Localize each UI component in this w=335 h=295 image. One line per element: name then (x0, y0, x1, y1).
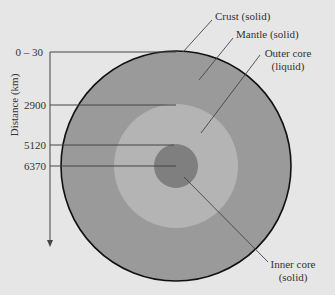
axis-arrow-icon (47, 240, 53, 247)
outer-core-label-line1: Outer core (265, 47, 312, 59)
tick-label-2900: 2900 (24, 99, 47, 111)
mantle-label: Mantle (solid) (236, 28, 299, 41)
tick-label-5120: 5120 (24, 139, 47, 151)
axis-label: Distance (km) (8, 73, 21, 136)
outer-core-label-line2: (liquid) (272, 60, 305, 73)
crust-label: Crust (solid) (215, 10, 271, 23)
earth-diagram: 0 – 30 2900 5120 6370 Distance (km) Crus… (0, 0, 335, 295)
inner-core-label-line1: Inner core (271, 258, 316, 270)
inner-core-label-line2: (solid) (279, 271, 308, 284)
tick-label-6370: 6370 (24, 160, 47, 172)
crust-leader (183, 20, 212, 52)
tick-label-0-30: 0 – 30 (16, 46, 44, 58)
